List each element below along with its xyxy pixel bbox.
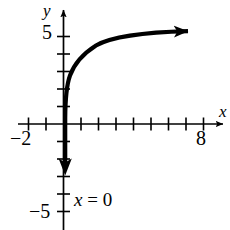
x-tick-label-8: 8 [196,128,206,148]
log-curve [65,31,188,168]
asymptote-value: 0 [103,189,113,210]
x-axis-label: x [219,103,227,120]
log-function-graph-figure: y x 5 −2 8 −5 x = 0 [0,0,230,230]
asymptote-annotation: x = 0 [74,190,112,209]
asymptote-equals: = [87,189,98,210]
y-tick-label-5: 5 [42,22,52,42]
plot-canvas [0,0,230,230]
y-axis-label: y [43,2,51,19]
y-tick-label-neg5: −5 [29,201,50,221]
x-tick-label-neg2: −2 [10,128,31,148]
